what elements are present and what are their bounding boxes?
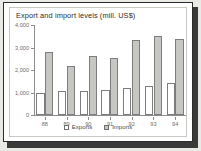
legend-label-exports: Exports <box>72 124 92 130</box>
bar-imports-89 <box>67 66 75 115</box>
bar-imports-92 <box>132 40 140 115</box>
x-tick <box>67 117 68 120</box>
y-tick-label: 4,000 <box>15 22 29 28</box>
x-tick <box>45 117 46 120</box>
bar-group <box>77 25 99 115</box>
x-tick <box>88 117 89 120</box>
bar-imports-88 <box>45 52 53 115</box>
bar-group <box>99 25 121 115</box>
legend-swatch-imports <box>104 125 109 130</box>
chart-title: Export and import levels (mill. US$) <box>16 11 135 20</box>
y-tick-label: 1,000 <box>15 90 29 96</box>
legend-item-exports: Exports <box>64 124 92 130</box>
x-axis-line <box>34 115 186 116</box>
chart-inner-panel: Export and import levels (mill. US$) 01,… <box>9 7 187 137</box>
bar-imports-93 <box>154 36 162 115</box>
y-tick-label: 2,000 <box>15 67 29 73</box>
chart-screenshot: Export and import levels (mill. US$) 01,… <box>0 0 201 151</box>
legend-label-imports: Imports <box>112 124 132 130</box>
bar-exports-91 <box>101 90 109 115</box>
legend-swatch-exports <box>64 125 69 130</box>
bar-imports-91 <box>110 58 118 115</box>
bar-imports-94 <box>175 39 183 115</box>
bar-group <box>56 25 78 115</box>
bar-group <box>143 25 165 115</box>
bar-exports-89 <box>58 91 66 115</box>
x-tick <box>110 117 111 120</box>
bar-exports-94 <box>167 83 175 115</box>
bar-exports-93 <box>145 86 153 115</box>
y-tick-label: 0 <box>26 112 29 118</box>
bar-group <box>121 25 143 115</box>
y-tick <box>31 115 35 116</box>
bar-group <box>34 25 56 115</box>
bar-exports-88 <box>36 93 44 116</box>
plot-area: 01,0002,0003,0004,000 88899091929394 <box>34 25 186 116</box>
x-tick <box>132 117 133 120</box>
chart-legend: Exports Imports <box>10 124 186 130</box>
legend-item-imports: Imports <box>104 124 132 130</box>
x-tick <box>153 117 154 120</box>
x-tick <box>175 117 176 120</box>
bar-exports-92 <box>123 88 131 115</box>
bar-group <box>164 25 186 115</box>
bar-exports-90 <box>80 91 88 115</box>
bar-imports-90 <box>89 56 97 115</box>
chart-frame: Export and import levels (mill. US$) 01,… <box>3 2 193 142</box>
y-tick-label: 3,000 <box>15 45 29 51</box>
